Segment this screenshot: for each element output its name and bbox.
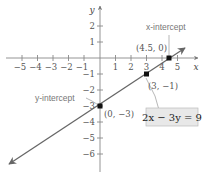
svg-text:2: 2 bbox=[128, 62, 133, 72]
point-3-neg1 bbox=[144, 72, 149, 77]
svg-text:−4: −4 bbox=[29, 62, 42, 72]
svg-text:−5: −5 bbox=[82, 133, 95, 143]
svg-text:2: 2 bbox=[90, 21, 95, 31]
coordinate-plane-chart: −5 −4 −3 −2 −1 1 2 3 4 5 2 1 −1 −2 −3 −4… bbox=[0, 0, 208, 181]
svg-text:−6: −6 bbox=[82, 149, 95, 159]
svg-text:−4: −4 bbox=[82, 117, 95, 127]
svg-text:−2: −2 bbox=[82, 85, 95, 95]
svg-text:5: 5 bbox=[175, 62, 180, 72]
point-x-intercept bbox=[167, 56, 172, 61]
point-y-intercept-label: (0, −3) bbox=[104, 109, 134, 119]
svg-text:1: 1 bbox=[90, 37, 95, 47]
svg-text:−5: −5 bbox=[14, 62, 27, 72]
svg-text:3: 3 bbox=[144, 62, 149, 72]
point-x-intercept-label: (4.5, 0) bbox=[136, 43, 167, 53]
x-axis-label: x bbox=[193, 62, 198, 72]
point-3-neg1-label: (3, −1) bbox=[148, 81, 178, 91]
svg-text:−3: −3 bbox=[82, 101, 95, 111]
y-tick-labels: 2 1 −1 −2 −3 −4 −5 −6 bbox=[82, 21, 95, 159]
svg-text:1: 1 bbox=[113, 62, 118, 72]
equation-label: 2x − 3y = 9 bbox=[142, 112, 202, 123]
y-axis-label: y bbox=[88, 5, 95, 15]
svg-text:−3: −3 bbox=[45, 62, 58, 72]
y-intercept-annotation: y-intercept bbox=[35, 93, 75, 103]
x-intercept-annotation: x-intercept bbox=[146, 22, 186, 32]
svg-text:−2: −2 bbox=[60, 62, 73, 72]
point-y-intercept bbox=[98, 104, 103, 109]
svg-text:−1: −1 bbox=[82, 69, 95, 79]
